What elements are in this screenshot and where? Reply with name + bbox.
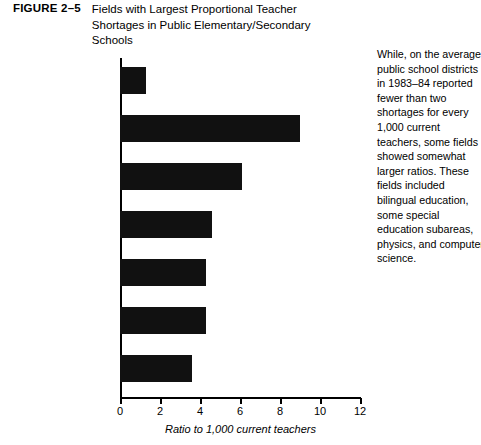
x-axis-tick-label: 8	[268, 405, 292, 417]
bar	[120, 307, 206, 334]
bar	[120, 67, 146, 94]
caption-line: While, on the average,	[377, 47, 481, 62]
caption-line: teachers, some fields	[377, 135, 481, 150]
bar	[120, 115, 300, 142]
bar	[120, 259, 206, 286]
caption-line: shortages for every	[377, 105, 481, 120]
x-axis-tick	[120, 398, 122, 404]
caption-line: larger ratios. These	[377, 164, 481, 179]
caption-line: in 1983–84 reported	[377, 76, 481, 91]
caption-line: 1,000 current	[377, 120, 481, 135]
x-axis-tick-label: 4	[188, 405, 212, 417]
caption-line: education subareas,	[377, 222, 481, 237]
bar	[120, 355, 192, 382]
x-axis-title: Ratio to 1,000 current teachers	[120, 423, 361, 435]
caption-line: physics, and computer	[377, 237, 481, 252]
x-axis-tick-label: 2	[148, 405, 172, 417]
x-axis-tick	[240, 398, 242, 404]
bar-chart: All fieldsBilingual educationSpecial edu…	[0, 0, 370, 445]
bar	[120, 211, 212, 238]
caption-line: some special	[377, 208, 481, 223]
caption-line: public school districts	[377, 62, 481, 77]
x-axis-tick	[160, 398, 162, 404]
x-axis-tick	[360, 398, 362, 404]
figure-side-caption: While, on the average,public school dist…	[377, 47, 481, 266]
caption-line: fewer than two	[377, 91, 481, 106]
caption-line: fields included	[377, 178, 481, 193]
x-axis-tick-label: 0	[108, 405, 132, 417]
caption-line: showed somewhat	[377, 149, 481, 164]
caption-line: bilingual education,	[377, 193, 481, 208]
x-axis-tick	[320, 398, 322, 404]
caption-line: science.	[377, 251, 481, 266]
bar	[120, 163, 242, 190]
x-axis-tick-label: 12	[348, 405, 372, 417]
x-axis-tick	[280, 398, 282, 404]
x-axis-tick-label: 6	[228, 405, 252, 417]
x-axis-tick-label: 10	[308, 405, 332, 417]
x-axis-tick	[200, 398, 202, 404]
